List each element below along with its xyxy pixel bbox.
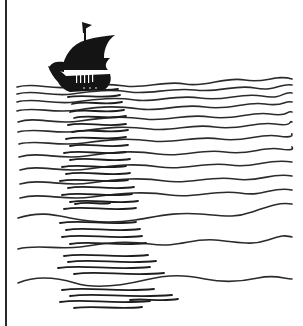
flag-icon	[82, 22, 92, 33]
sea-drawing	[0, 0, 303, 326]
waves	[17, 78, 293, 287]
illustration-canvas: Sailing ship on wavy sea with reflection	[0, 0, 303, 326]
ship-icon	[48, 22, 115, 92]
